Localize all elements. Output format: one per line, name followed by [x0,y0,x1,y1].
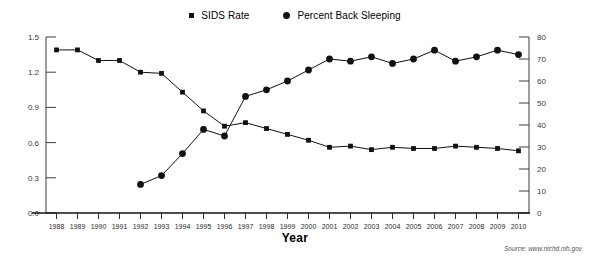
data-point-sids-rate [159,71,164,76]
data-point-sids-rate [285,132,290,137]
x-axis-year-label: 1994 [175,223,191,230]
data-point-percent-back-sleeping [179,150,186,157]
data-point-sids-rate [327,145,332,150]
data-point-percent-back-sleeping [410,56,417,63]
right-axis-tick-label: 50 [537,99,546,108]
left-axis-tick-label: 1.5 [28,33,40,42]
left-axis-tick-label: 0.9 [28,103,40,112]
data-point-percent-back-sleeping [515,51,522,58]
right-axis-tick-label: 40 [537,121,546,130]
data-point-percent-back-sleeping [389,60,396,67]
x-axis-year-label: 1997 [238,223,254,230]
data-point-percent-back-sleeping [452,58,459,65]
right-axis-tick-label: 60 [537,77,546,86]
x-axis-year-label: 2004 [385,223,401,230]
left-axis-line [46,37,56,213]
x-axis-year-label: 1991 [112,223,128,230]
data-point-sids-rate [138,70,143,75]
data-point-percent-back-sleeping [368,53,375,60]
data-point-sids-rate [411,146,416,151]
axes-group: 0.00.30.60.91.21.50102030405060708019881… [28,33,547,230]
x-axis-year-label: 2003 [364,223,380,230]
data-point-sids-rate [453,144,458,149]
data-point-sids-rate [96,58,101,63]
x-axis-title: Year [0,231,590,245]
x-axis-year-label: 2010 [511,223,527,230]
x-axis-year-label: 2005 [406,223,422,230]
right-axis-tick-label: 80 [537,33,546,42]
data-point-percent-back-sleeping [263,86,270,93]
data-point-sids-rate [117,58,122,63]
data-point-sids-rate [75,48,80,53]
x-axis-year-label: 2007 [448,223,464,230]
left-axis-tick-label: 0.6 [28,139,40,148]
data-point-sids-rate [432,146,437,151]
data-point-percent-back-sleeping [137,181,144,188]
left-axis-tick-label: 0.3 [28,174,40,183]
x-axis-year-label: 1988 [49,223,65,230]
right-axis-tick-label: 10 [537,187,546,196]
x-axis-year-label: 1992 [133,223,149,230]
left-axis-tick-label: 1.2 [28,68,40,77]
right-axis-tick-label: 20 [537,165,546,174]
data-point-percent-back-sleeping [431,47,438,54]
x-axis-year-label: 1999 [280,223,296,230]
data-point-sids-rate [495,146,500,151]
right-axis-tick-label: 0 [537,209,542,218]
data-point-sids-rate [222,124,227,129]
x-axis-year-label: 2008 [469,223,485,230]
x-axis-year-label: 2009 [490,223,506,230]
data-point-percent-back-sleeping [242,93,249,100]
x-axis-year-label: 1993 [154,223,170,230]
x-axis-year-label: 2000 [301,223,317,230]
sids-chart-figure: SIDS Rate Percent Back Sleeping 0.00.30.… [0,0,590,261]
data-point-percent-back-sleeping [473,53,480,60]
source-note: Source: www.nichd.nih.gov [504,245,582,252]
data-point-sids-rate [516,148,521,153]
data-point-sids-rate [180,90,185,95]
data-point-percent-back-sleeping [158,172,165,179]
data-point-sids-rate [201,109,206,114]
x-axis-year-label: 1996 [217,223,233,230]
data-point-sids-rate [243,120,248,125]
data-point-percent-back-sleeping [326,56,333,63]
plot-area: 0.00.30.60.91.21.50102030405060708019881… [0,0,590,261]
data-point-percent-back-sleeping [221,133,228,140]
x-axis-year-label: 1990 [91,223,107,230]
series-line-percent-back-sleeping [141,50,519,184]
data-point-percent-back-sleeping [305,67,312,74]
series-group [54,47,522,188]
data-point-percent-back-sleeping [284,78,291,85]
x-axis-year-label: 1998 [259,223,275,230]
data-point-sids-rate [54,48,59,53]
x-axis-year-label: 2002 [343,223,359,230]
right-axis-tick-label: 30 [537,143,546,152]
data-point-percent-back-sleeping [347,58,354,65]
x-axis-year-label: 1989 [70,223,86,230]
data-point-percent-back-sleeping [200,126,207,133]
data-point-sids-rate [306,138,311,143]
x-axis-year-label: 2001 [322,223,338,230]
data-point-sids-rate [369,147,374,152]
data-point-percent-back-sleeping [494,47,501,54]
data-point-sids-rate [390,145,395,150]
right-axis-tick-label: 70 [537,55,546,64]
data-point-sids-rate [264,126,269,131]
x-axis-year-label: 2006 [427,223,443,230]
data-point-sids-rate [348,144,353,149]
data-point-sids-rate [474,145,479,150]
x-axis-year-label: 1995 [196,223,212,230]
